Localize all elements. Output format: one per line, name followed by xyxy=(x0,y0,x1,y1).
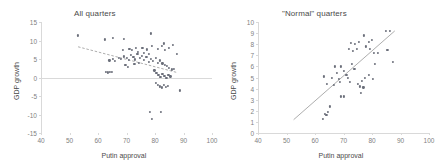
data-point xyxy=(327,111,329,113)
data-point xyxy=(141,55,143,57)
data-point xyxy=(348,48,350,50)
data-point xyxy=(339,81,341,83)
y-tick-mark xyxy=(39,96,41,97)
x-tick-mark xyxy=(70,133,71,135)
x-tick-label: 70 xyxy=(340,137,347,144)
y-tick-mark xyxy=(256,89,258,90)
x-tick-mark xyxy=(98,133,99,135)
data-point xyxy=(152,60,154,62)
x-tick-label: 40 xyxy=(254,137,261,144)
data-point xyxy=(385,30,387,32)
data-point xyxy=(359,85,361,87)
y-tick-mark xyxy=(39,41,41,42)
y-tick-label: 6 xyxy=(238,63,254,70)
x-tick-label: 100 xyxy=(207,137,218,144)
data-point xyxy=(334,65,336,67)
chart-panel-normal-quarters: "Normal" quarters GDP growth Putin appro… xyxy=(222,0,443,168)
chart-title-left: All quarters xyxy=(74,9,116,18)
data-point xyxy=(356,48,358,50)
y-axis-title-right: GDP growth xyxy=(230,62,237,100)
data-point xyxy=(157,62,159,64)
data-point xyxy=(146,48,148,50)
data-point xyxy=(386,49,388,51)
trendline-right xyxy=(258,22,429,133)
x-tick-label: 80 xyxy=(368,137,375,144)
data-point xyxy=(131,49,133,51)
x-tick-mark xyxy=(184,133,185,135)
data-point xyxy=(123,38,125,40)
data-point xyxy=(108,59,110,61)
x-tick-label: 60 xyxy=(94,137,101,144)
x-tick-mark xyxy=(429,133,430,135)
chart-panel-all-quarters: All quarters GDP growth Putin approval 1… xyxy=(0,0,222,168)
y-tick-mark xyxy=(256,122,258,123)
y-tick-mark xyxy=(256,100,258,101)
x-tick-label: 90 xyxy=(180,137,187,144)
data-point xyxy=(133,63,135,65)
y-tick-label: -5 xyxy=(21,93,37,100)
x-tick-label: 100 xyxy=(424,137,435,144)
y-tick-label: 1 xyxy=(238,118,254,125)
y-tick-mark xyxy=(256,66,258,67)
data-point xyxy=(160,111,162,113)
data-point xyxy=(134,58,136,60)
y-tick-label: 3 xyxy=(238,96,254,103)
data-point xyxy=(322,117,324,119)
data-point xyxy=(136,53,138,55)
data-point xyxy=(127,66,129,68)
y-axis-title-left: GDP growth xyxy=(13,62,20,100)
data-point xyxy=(365,45,367,47)
y-tick-mark xyxy=(39,59,41,60)
x-tick-label: 50 xyxy=(283,137,290,144)
data-point xyxy=(149,110,151,112)
x-tick-mark xyxy=(212,133,213,135)
data-point xyxy=(167,85,169,87)
x-tick-mark xyxy=(372,133,373,135)
x-tick-label: 70 xyxy=(123,137,130,144)
y-tick-mark xyxy=(256,33,258,34)
data-point xyxy=(112,37,114,39)
data-point xyxy=(331,76,333,78)
y-tick-label: 5 xyxy=(238,74,254,81)
x-tick-mark xyxy=(155,133,156,135)
y-tick-label: 10 xyxy=(238,19,254,26)
data-point xyxy=(104,38,106,40)
data-point xyxy=(364,76,366,78)
data-point xyxy=(161,45,163,47)
data-point xyxy=(114,60,116,62)
data-point xyxy=(164,49,166,51)
data-point xyxy=(322,75,324,77)
x-tick-mark xyxy=(344,133,345,135)
y-tick-label: -10 xyxy=(21,111,37,118)
data-point xyxy=(354,43,356,45)
data-point xyxy=(389,30,391,32)
y-tick-label: 9 xyxy=(238,30,254,37)
x-tick-label: 60 xyxy=(311,137,318,144)
data-point xyxy=(338,78,340,80)
x-tick-label: 50 xyxy=(66,137,73,144)
data-point xyxy=(351,63,353,65)
x-tick-mark xyxy=(401,133,402,135)
data-point xyxy=(172,43,174,45)
x-tick-mark xyxy=(287,133,288,135)
data-point xyxy=(329,105,331,107)
x-axis-title-left: Putin approval xyxy=(102,152,147,159)
data-point xyxy=(165,77,167,79)
figure-container: All quarters GDP growth Putin approval 1… xyxy=(0,0,443,168)
data-point xyxy=(111,71,113,73)
y-tick-label: 5 xyxy=(21,56,37,63)
data-point xyxy=(362,86,364,88)
chart-title-right: "Normal" quarters xyxy=(282,9,347,18)
data-point xyxy=(128,59,130,61)
data-point xyxy=(135,47,137,49)
data-point xyxy=(343,95,345,97)
y-tick-label: 15 xyxy=(21,19,37,26)
y-tick-label: 0 xyxy=(21,74,37,81)
y-tick-label: 10 xyxy=(21,37,37,44)
data-point xyxy=(326,83,328,85)
x-tick-mark xyxy=(41,133,42,135)
data-point xyxy=(77,34,79,36)
y-tick-label: 8 xyxy=(238,41,254,48)
data-point xyxy=(347,76,349,78)
x-tick-label: 40 xyxy=(37,137,44,144)
